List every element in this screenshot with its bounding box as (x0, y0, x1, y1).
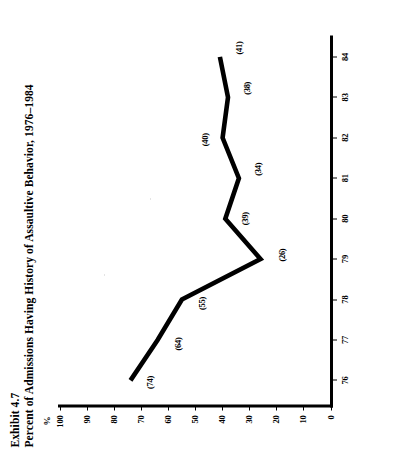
data-point-label: (39) (240, 212, 250, 225)
scan-speck (104, 274, 105, 275)
data-point-label: (26) (277, 248, 287, 261)
scanned-page: Exhibit 4.7 Percent of Admissions Having… (0, 0, 394, 461)
scan-speck (150, 198, 151, 199)
data-point-label: (74) (145, 375, 155, 388)
data-point-label: (64) (173, 337, 183, 350)
figure-page: Exhibit 4.7 Percent of Admissions Having… (0, 0, 394, 461)
series-line (0, 0, 394, 461)
data-point-label: (38) (242, 81, 252, 94)
data-point-label: (40) (200, 133, 210, 146)
data-point-label: (34) (253, 162, 263, 175)
chart-plot-area: % 1009080706050403020100 767778798081828… (0, 0, 394, 461)
data-point-label: (41) (234, 41, 244, 54)
data-point-label: (55) (197, 297, 207, 310)
